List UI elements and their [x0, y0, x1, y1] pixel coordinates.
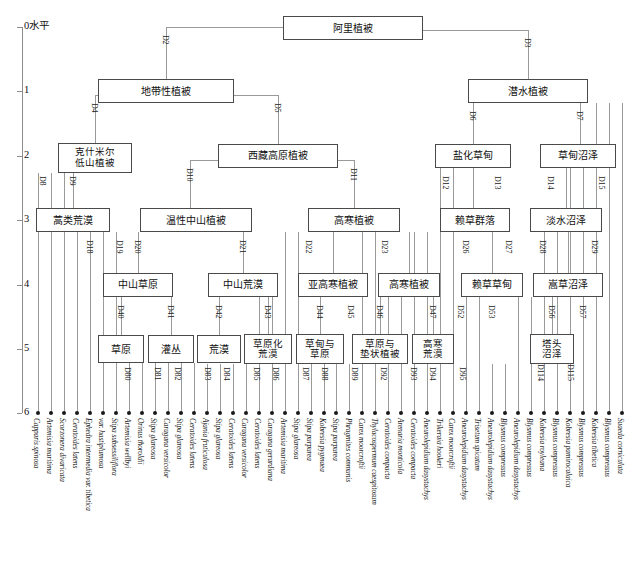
leaf-dot [490, 411, 494, 415]
leaf-dot [334, 411, 338, 415]
node-root[interactable]: 阿里植被 [283, 16, 423, 40]
connector-freshwater-kobresia [568, 232, 569, 272]
leaf-label: Caragana gerardiana [266, 418, 275, 481]
leaf-label: Artemisia maritima [45, 418, 54, 474]
edge-code-D42: D42 [214, 305, 223, 318]
edge-code-D14: D14 [546, 176, 555, 189]
leaf-dot [62, 411, 66, 415]
leaf-label: Kobresia tibetica [590, 418, 599, 467]
node-steppe-and-cushion[interactable]: 草原与 垫状植被 [352, 334, 408, 364]
leaf-stem [622, 103, 623, 413]
node-meadow-and-steppe[interactable]: 草甸与 草原 [296, 334, 344, 364]
leaf-label: Arenaria monticola [396, 418, 405, 474]
leaf-dot [36, 411, 40, 415]
edge-code-D40: D40 [116, 305, 125, 318]
node-kashmir-lowmountain[interactable]: 克什米尔 低山植被 [58, 143, 132, 173]
edge-code-D47: D47 [428, 305, 437, 318]
leaf-dot [386, 411, 390, 415]
leaf-dot [568, 411, 572, 415]
leaf-stem [220, 364, 221, 413]
leaf-dot [127, 411, 131, 415]
dendrogram-canvas: 0水平123456阿里植被地带性植被潜水植被克什米尔 低山植被西藏高原植被盐化草… [0, 0, 637, 577]
edge-code-D44: D44 [315, 305, 324, 318]
edge-code-D20: D20 [133, 240, 142, 253]
leaf-dot [412, 411, 416, 415]
edge-code-D2: D2 [161, 35, 170, 44]
node-aquatic-vegetation[interactable]: 潜水植被 [468, 79, 588, 103]
axis-tick-5 [17, 349, 22, 350]
leaf-dot [620, 411, 624, 415]
leaf-label: Carex moorcroftii [357, 418, 366, 469]
node-midmountain-steppe[interactable]: 中山草原 [103, 273, 173, 297]
connector-zonal-tibet [234, 95, 278, 96]
axis-tick-label-1: 1 [24, 85, 29, 95]
leaf-dot [283, 411, 287, 415]
leaf-stem [479, 297, 480, 414]
leaf-dot [49, 411, 53, 415]
connector-aquatic-saline [473, 103, 474, 143]
node-steppified-desert[interactable]: 草原化 荒漠 [244, 334, 292, 364]
node-artemisia-desert[interactable]: 蒿类荒漠 [36, 208, 110, 232]
edge-code-D89: D89 [350, 367, 359, 380]
node-saline-meadow[interactable]: 盐化草甸 [435, 144, 511, 168]
edge-code-D56: D56 [547, 305, 556, 318]
edge-code-D84: D84 [222, 367, 231, 380]
leaf-stem [311, 364, 312, 413]
node-tibet-plateau[interactable]: 西藏高原植被 [218, 144, 338, 168]
leaf-stem [505, 364, 506, 413]
leaf-dot [438, 411, 442, 415]
edge-code-D28: D28 [538, 240, 547, 253]
node-steppe[interactable]: 草原 [98, 335, 144, 363]
leaf-dot [153, 411, 157, 415]
node-shrub[interactable]: 灌丛 [148, 335, 194, 363]
edge-code-D80: D80 [123, 367, 132, 380]
edge-code-D18: D18 [85, 240, 94, 253]
edge-code-D114: D114 [536, 364, 545, 381]
node-desert[interactable]: 荒漠 [197, 335, 241, 363]
node-kobresia-swamp[interactable]: 嵩草沼泽 [533, 273, 603, 297]
leaf-label: Ceratoides latens [227, 418, 236, 468]
leaf-dot [594, 411, 598, 415]
node-subalpine-vegetation[interactable]: 亚高寒植被 [298, 273, 368, 297]
edge-code-D5: D5 [273, 103, 282, 112]
edge-code-D52: D52 [456, 305, 465, 318]
leaf-label: Blysmus compressus [525, 418, 534, 477]
leaf-dot [477, 411, 481, 415]
node-alpine-vegetation[interactable]: 高寒植被 [308, 208, 400, 232]
edge-code-D13: D13 [493, 176, 502, 189]
node-leymus-meadow[interactable]: 赖草草甸 [461, 273, 523, 297]
leaf-dot [347, 411, 351, 415]
node-freshwater-swamp[interactable]: 淡水沼泽 [530, 208, 602, 232]
node-warm-midmountain[interactable]: 温性中山植被 [140, 208, 252, 232]
node-hummock-swamp[interactable]: 塔头 沼泽 [530, 334, 574, 364]
edge-code-D10: D10 [185, 168, 194, 181]
leaf-stem [362, 232, 363, 413]
leaf-stem [77, 232, 78, 413]
node-zonal-vegetation[interactable]: 地带性植被 [98, 79, 234, 103]
leaf-dot [399, 411, 403, 415]
leaf-label: Capparis spinosa [32, 418, 41, 468]
node-meadow-swamp[interactable]: 草甸沼泽 [540, 144, 616, 168]
leaf-stem [116, 232, 117, 413]
connector-alpine-alpine2 [409, 232, 410, 272]
leaf-label: Ceratoides compacta [409, 418, 418, 479]
leaf-stem [285, 232, 286, 413]
leaf-label: Stipa subsessiliflora [110, 418, 119, 476]
leaf-label: Blysmus compressus [499, 418, 508, 477]
node-leymus-community[interactable]: 赖草群落 [440, 208, 510, 232]
leaf-label: Ephedra intermedia var. tibetica [84, 418, 93, 511]
leaf-label: Ceratoides latens [188, 418, 197, 468]
leaf-label: Thylacospermum caespitosum [370, 418, 379, 505]
leaf-stem [466, 297, 467, 414]
leaf-label: Stipa purpurea [305, 418, 314, 461]
leaf-dot [75, 411, 79, 415]
leaf-stem [518, 297, 519, 414]
connector-tibet-warm [190, 160, 218, 161]
node-alpine-desert[interactable]: 高寒 荒漠 [412, 334, 454, 364]
leaf-label: Kobresia royleana [538, 418, 547, 471]
node-alpine-vegetation-2[interactable]: 高寒植被 [378, 273, 440, 297]
connector-saline-leymus [473, 168, 474, 208]
node-midmountain-desert[interactable]: 中山荒漠 [208, 273, 278, 297]
axis-tick-label-5: 5 [24, 343, 29, 353]
edge-code-D22: D22 [304, 240, 313, 253]
